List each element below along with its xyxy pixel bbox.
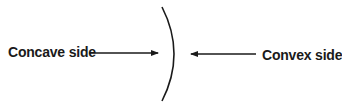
- curved-surface: [162, 7, 174, 101]
